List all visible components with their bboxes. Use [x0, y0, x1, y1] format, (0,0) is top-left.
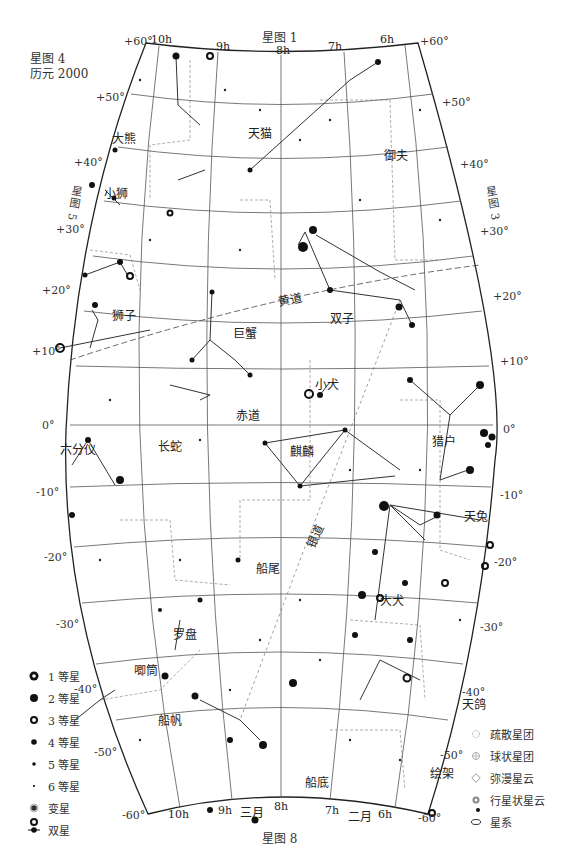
legend-item-globular-cluster: 球状星团	[470, 745, 545, 767]
dec-left-m20: -20°	[44, 551, 67, 564]
constellation-canis-major: 大犬	[380, 591, 404, 608]
legend-item-double-star: 双星	[28, 819, 81, 841]
ra-label-top-7h: 7h	[328, 40, 342, 53]
legend-item-galaxy: 星系	[470, 811, 545, 833]
legend-item-mag5: 5 等星	[28, 753, 81, 775]
ra-label-top-6h: 6h	[380, 33, 394, 46]
constellation-auriga: 御夫	[384, 146, 408, 163]
ra-label-bottom-6h: 6h	[378, 808, 392, 821]
dec-right-p40: +40°	[460, 158, 489, 171]
constellation-lynx: 天猫	[248, 124, 272, 141]
constellation-ursa-major: 大熊	[112, 129, 136, 146]
ra-label-top-10h: 10h	[151, 33, 172, 46]
dec-left-m50: -50°	[94, 746, 117, 759]
constellation-canis-minor: 小犬	[315, 375, 339, 392]
constellation-puppis: 船尾	[256, 559, 280, 576]
constellation-vela: 船帆	[158, 711, 182, 728]
constellation-monoceros: 麒麟	[290, 442, 314, 459]
dec-right-0: 0°	[503, 423, 516, 436]
ra-label-bottom-8h: 8h	[274, 800, 288, 813]
constellation-hydra: 长蛇	[158, 437, 182, 454]
dec-left-m60: -60°	[122, 809, 145, 822]
constellation-lepus: 天兔	[464, 507, 488, 524]
legend-magnitudes: 1 等星 2 等星 3 等星 4 等星 5 等星 6 等星 变星 双星	[28, 665, 81, 841]
constellation-sextans: 六分仪	[60, 440, 96, 457]
dec-left-p40: +40°	[74, 156, 103, 169]
legend-item-mag2: 2 等星	[28, 687, 81, 709]
dec-right-p60: +60°	[420, 35, 449, 48]
legend-item-mag1: 1 等星	[28, 665, 81, 687]
epoch-label: 历元 2000	[30, 67, 88, 82]
dec-right-m60: -60°	[418, 812, 441, 825]
month-label-february: 二月	[348, 807, 372, 824]
dec-right-p30: +30°	[480, 225, 509, 238]
dec-left-p60: +60°	[124, 35, 153, 48]
declination-grid	[70, 94, 493, 720]
dec-left-m30: -30°	[56, 618, 79, 631]
dec-right-m10: -10°	[500, 489, 523, 502]
constellation-columba: 天鸽	[462, 695, 486, 712]
ra-label-bottom-9h: 9h	[218, 804, 232, 817]
dec-left-0: 0°	[42, 419, 55, 432]
dec-right-p50: +50°	[442, 96, 471, 109]
dec-right-p10: +10°	[500, 355, 529, 368]
legend-item-planetary-nebula: 行星状星云	[470, 789, 545, 811]
ra-label-top-9h: 9h	[216, 40, 230, 53]
dec-left-p20: +20°	[42, 284, 71, 297]
constellation-leo-minor: 小狮	[104, 184, 128, 201]
constellation-leo: 狮子	[112, 306, 136, 323]
dec-right-m50: -50°	[440, 749, 463, 762]
dec-right-m20: -20°	[494, 556, 517, 569]
month-label-march: 三月	[240, 803, 264, 820]
constellation-gemini: 双子	[330, 309, 354, 326]
milky-way-line	[240, 300, 400, 720]
constellation-pyxis: 罗盘	[173, 625, 197, 642]
constellation-cancer: 巨蟹	[233, 324, 257, 341]
ra-label-bottom-7h: 7h	[325, 804, 339, 817]
legend-item-mag3: 3 等星	[28, 709, 81, 731]
dec-left-p50: +50°	[96, 91, 125, 104]
legend-item-mag6: 6 等星	[28, 775, 81, 797]
legend-item-open-cluster: 疏散星团	[470, 723, 545, 745]
constellation-carina: 船底	[305, 773, 329, 790]
equator-label: 赤道	[236, 406, 260, 423]
dec-left-p10: +10°	[32, 345, 61, 358]
dec-left-p30: +30°	[56, 223, 85, 236]
constellation-antlia: 唧筒	[134, 661, 158, 678]
neighbor-chart-top[interactable]: 星图 1	[262, 28, 297, 45]
neighbor-chart-bottom[interactable]: 星图 8	[262, 829, 297, 846]
dec-right-p20: +20°	[493, 290, 522, 303]
legend-item-variable-star: 变星	[28, 797, 81, 819]
dec-left-m10: -10°	[36, 486, 59, 499]
ra-label-bottom-10h: 10h	[168, 808, 189, 821]
legend-deep-sky: 疏散星团 球状星团 弥漫星云 行星状星云 星系	[470, 723, 545, 833]
dec-right-m30: -30°	[480, 621, 503, 634]
constellation-orion: 猎户	[432, 432, 456, 449]
ra-label-top-8h: 8h	[276, 44, 290, 57]
constellation-pictor: 绘架	[430, 764, 454, 781]
chart-number: 星图 4	[30, 52, 65, 67]
faint-stars	[99, 79, 461, 761]
legend-item-mag4: 4 等星	[28, 731, 81, 753]
legend-item-diffuse-nebula: 弥漫星云	[470, 767, 545, 789]
